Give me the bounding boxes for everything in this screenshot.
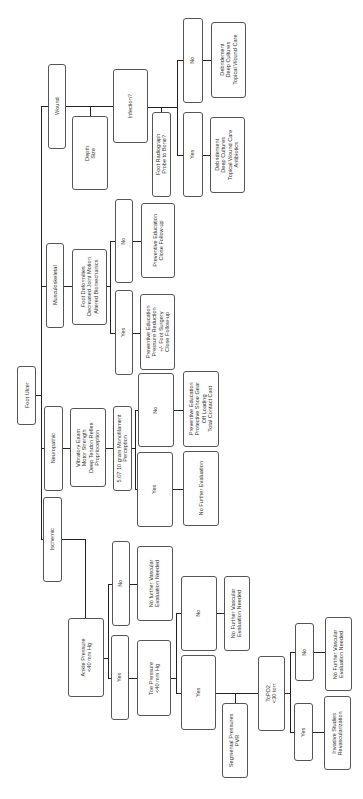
node-toe-yes: Yes xyxy=(181,655,216,730)
node-tcpo2-yes-treatment: Invasive Studies Revascularization xyxy=(324,696,351,770)
connector-inf-yes-tx xyxy=(203,155,210,156)
node-label: Yes xyxy=(195,688,201,697)
node-label: Ischemic xyxy=(49,528,55,550)
connector-inf-no-tx xyxy=(203,60,211,61)
node-label: No xyxy=(196,610,202,617)
node-toe-no-treatment: No Further Vascular Evaluation Needed xyxy=(224,576,250,651)
node-label: Foot Ulcer xyxy=(23,383,29,409)
connector-toe-split-v xyxy=(176,613,177,693)
node-label: Preventive Education Close Follow-up xyxy=(152,214,165,267)
connector-neuro-no-tx xyxy=(174,410,183,411)
node-label: 5.07 10 gram Monofilament Perception xyxy=(116,414,129,482)
connector-neuro-split xyxy=(135,410,136,489)
node-label: Yes xyxy=(152,485,158,494)
connector-infection-branch xyxy=(148,107,177,108)
node-label: Yes xyxy=(190,150,196,159)
connector-wound-depth xyxy=(90,106,91,116)
node-ankle-yes: Yes xyxy=(111,635,129,720)
node-label: Invasive Studies Revascularization xyxy=(331,711,344,755)
node-foot-deformities: Foot Deformities Decreased Joint Motion … xyxy=(72,249,107,325)
node-label: Segmental Pressures PVR xyxy=(229,714,242,767)
connector-infection-split xyxy=(177,60,178,155)
node-neuro-no: No xyxy=(138,373,174,447)
node-monofilament: 5.07 10 gram Monofilament Perception xyxy=(113,406,132,491)
node-label: Yes xyxy=(300,727,306,736)
node-foot-radiograph: Foot Radiograph Probe to Bone? xyxy=(152,112,171,197)
node-label: Debridement Deep Cultures Topical Wound … xyxy=(219,35,238,85)
node-label: Vibratory Exam Motor Strength Deep Tendo… xyxy=(75,422,101,473)
connector-neuro-vib xyxy=(63,448,70,449)
node-label: Toe Pressure <40 mm Hg xyxy=(148,662,161,695)
node-tcpo2-yes: Yes xyxy=(294,703,313,761)
node-neuro-no-treatment: Preventive Education Protective Shoe Gea… xyxy=(183,371,219,447)
connector-ischemic-down xyxy=(85,539,86,618)
node-musculoskeletal: Musculoskeletal xyxy=(46,243,64,328)
connector-ankle-split-v xyxy=(108,584,109,678)
node-infection-yes-treatment: Debridement Deep Cultures Topical Wound … xyxy=(210,117,245,193)
node-label: Yes xyxy=(117,673,123,682)
node-tcpo2-no: No xyxy=(295,623,314,681)
connector-vib-mono xyxy=(106,448,113,449)
node-foot-ulcer: Foot Ulcer xyxy=(17,366,36,425)
connector-tcpo2-yes-tx xyxy=(313,732,324,733)
node-label: Musculoskeletal xyxy=(52,266,58,306)
connector-msk-yes-tx xyxy=(133,333,140,334)
node-label: Yes xyxy=(121,328,127,337)
node-msk-yes: Yes xyxy=(115,290,133,375)
node-msk-no: No xyxy=(115,199,133,283)
node-segmental-pressures: Segmental Pressures PVR xyxy=(222,703,248,778)
node-label: Depth Size xyxy=(84,146,97,161)
connector-msk-split xyxy=(110,241,111,333)
connector-toe-no-tx xyxy=(217,613,224,614)
node-label: Foot Deformities Decreased Joint Motion … xyxy=(80,258,99,317)
node-label: No further Vascular Evaluation Needed xyxy=(149,560,162,608)
node-label: No xyxy=(121,237,127,244)
node-ischemic: Ischemic xyxy=(43,497,62,582)
node-label: Foot Radiograph Probe to Bone? xyxy=(155,134,168,176)
node-msk-yes-treatment: Preventive Education Pressure Reduction … xyxy=(140,294,175,370)
node-label: No xyxy=(301,648,307,655)
node-label: No Further Evaluation xyxy=(198,461,204,515)
connector-root xyxy=(36,395,42,396)
node-label: Preventive Education Protective Shoe Gea… xyxy=(188,382,214,435)
node-tcpo2-no-treatment: No Further Vascular Evaluation Needed xyxy=(325,617,352,691)
node-label: No xyxy=(153,406,159,413)
node-toe-no: No xyxy=(181,576,217,651)
connector-tcpo2-no-tx xyxy=(314,652,325,653)
connector-msk-no-tx xyxy=(133,241,141,242)
node-toe-pressure: Toe Pressure <40 mm Hg xyxy=(137,640,171,716)
node-ankle-no-treatment: No further Vascular Evaluation Needed xyxy=(137,546,173,621)
node-infection-no: No xyxy=(183,18,203,103)
node-infection: Infection? xyxy=(113,69,148,143)
node-wound: Wound xyxy=(48,64,66,149)
node-label: No xyxy=(118,580,124,587)
node-label: TcPO2 <30 torr xyxy=(265,684,278,703)
node-infection-yes: Yes xyxy=(183,112,203,197)
node-label: Neuropathic xyxy=(50,433,56,463)
connector-segmental xyxy=(235,693,236,703)
node-label: Wound xyxy=(54,98,60,116)
node-depth-size: Depth Size xyxy=(72,116,108,190)
node-label: Debridement Deep Cultures Topical Wound … xyxy=(215,130,241,180)
node-label: Preventive Education Pressure Reduction … xyxy=(145,306,171,359)
connector-msk-deform xyxy=(64,286,72,287)
node-neuro-yes-treatment: No Further Evaluation xyxy=(183,451,219,526)
node-label: No xyxy=(190,57,196,64)
node-neuropathic: Neuropathic xyxy=(44,406,63,491)
node-label: No Further Vascular Evaluation Needed xyxy=(332,629,345,679)
connector-wound xyxy=(41,106,48,107)
node-msk-no-treatment: Preventive Education Close Follow-up xyxy=(141,203,175,278)
node-ankle-pressure: Ankle Pressure <40 mm Hg xyxy=(68,618,104,697)
connector-toe-yes-tcpo2 xyxy=(216,693,258,694)
node-infection-no-treatment: Debridement Deep Cultures Topical Wound … xyxy=(211,22,246,98)
node-ankle-no: No xyxy=(112,541,130,626)
node-vibratory-exam: Vibratory Exam Motor Strength Deep Tendo… xyxy=(70,408,106,487)
main-spine xyxy=(41,106,42,539)
connector-neuro-yes-tx xyxy=(173,489,183,490)
node-neuro-yes: Yes xyxy=(137,452,173,527)
node-tcpo2: TcPO2 <30 torr xyxy=(258,656,285,731)
connector-ankle-no-tx xyxy=(130,584,137,585)
node-label: No Further Vascular Evaluation Needed xyxy=(231,589,244,639)
node-label: Ankle Pressure <40 mm Hg xyxy=(80,639,93,677)
connector-tcpo2-split-v xyxy=(290,652,291,732)
